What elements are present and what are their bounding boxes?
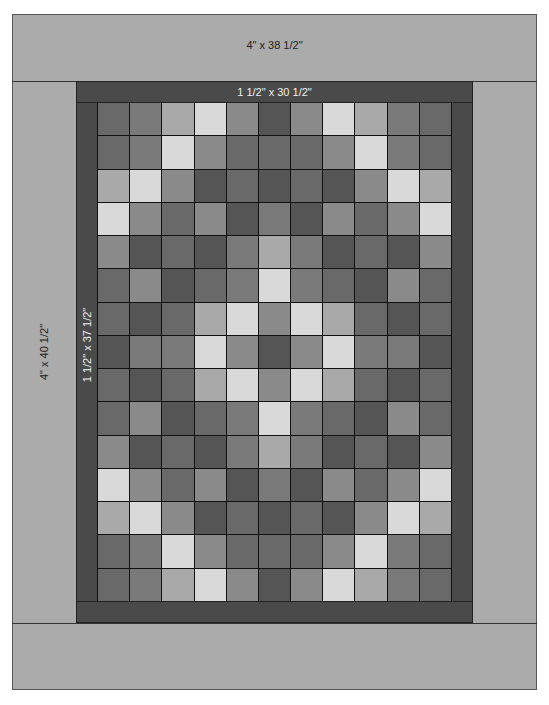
quilt-square (195, 402, 226, 434)
quilt-square (195, 136, 226, 168)
quilt-square (98, 336, 129, 368)
quilt-square (291, 569, 322, 601)
quilt-square (98, 502, 129, 534)
quilt-square (355, 236, 386, 268)
quilt-square (195, 269, 226, 301)
quilt-square (227, 136, 258, 168)
quilt-square (291, 170, 322, 202)
quilt-square (98, 170, 129, 202)
quilt-square (162, 535, 193, 567)
outer-border-bottom (12, 623, 537, 690)
quilt-square (259, 203, 290, 235)
quilt-square (195, 436, 226, 468)
quilt-square (355, 170, 386, 202)
quilt-square (388, 103, 419, 135)
quilt-square (323, 569, 354, 601)
outer-border-left: 4" x 40 1/2" (12, 82, 76, 623)
quilt-square (162, 569, 193, 601)
quilt-square (355, 203, 386, 235)
quilt-square (291, 136, 322, 168)
quilt-square (291, 269, 322, 301)
quilt-square (420, 502, 451, 534)
quilt-square (323, 369, 354, 401)
quilt-square (98, 436, 129, 468)
quilt-square (98, 402, 129, 434)
quilt-square (323, 269, 354, 301)
outer-top-dimension-label: 4" x 38 1/2" (12, 39, 537, 51)
quilt-square (227, 236, 258, 268)
quilt-square (355, 303, 386, 335)
quilt-square (291, 369, 322, 401)
quilt-square (291, 436, 322, 468)
quilt-square (227, 103, 258, 135)
quilt-square (162, 469, 193, 501)
quilt-square (227, 170, 258, 202)
quilt-square (98, 236, 129, 268)
quilt-square (162, 402, 193, 434)
quilt-square (323, 402, 354, 434)
quilt-square (227, 436, 258, 468)
inner-top-dimension-label: 1 1/2" x 30 1/2" (76, 86, 473, 98)
quilt-square (227, 303, 258, 335)
quilt-square (291, 203, 322, 235)
quilt-square (130, 502, 161, 534)
quilt-square (420, 569, 451, 601)
quilt-square (323, 535, 354, 567)
quilt-square (162, 303, 193, 335)
quilt-square (291, 236, 322, 268)
quilt-square (323, 469, 354, 501)
quilt-square (195, 336, 226, 368)
quilt-square (130, 103, 161, 135)
quilt-square (195, 103, 226, 135)
quilt-square (98, 569, 129, 601)
quilt-square (420, 535, 451, 567)
quilt-square (130, 170, 161, 202)
quilt-square (355, 269, 386, 301)
quilt-square (130, 469, 161, 501)
quilt-square (162, 236, 193, 268)
quilt-square (323, 303, 354, 335)
quilt-square (130, 535, 161, 567)
quilt-square (355, 436, 386, 468)
quilt-square (98, 136, 129, 168)
outer-side-dimension-label: 4" x 40 1/2" (38, 324, 50, 380)
quilt-square (355, 502, 386, 534)
quilt-square (130, 369, 161, 401)
quilt-square (291, 469, 322, 501)
quilt-square (259, 436, 290, 468)
quilt-square (195, 203, 226, 235)
quilt-square (195, 569, 226, 601)
inner-side-dimension-label: 1 1/2" x 37 1/2" (81, 308, 93, 382)
quilt-square (420, 203, 451, 235)
quilt-square (130, 269, 161, 301)
quilt-square (420, 170, 451, 202)
quilt-square (388, 170, 419, 202)
quilt-square (162, 203, 193, 235)
quilt-square (98, 303, 129, 335)
quilt-square (259, 469, 290, 501)
quilt-square (162, 436, 193, 468)
quilt-square (227, 535, 258, 567)
quilt-square (355, 336, 386, 368)
inner-border-bottom-divider (76, 601, 473, 602)
quilt-square (98, 469, 129, 501)
quilt-square (420, 303, 451, 335)
quilt-square (388, 336, 419, 368)
quilt-square (98, 103, 129, 135)
quilt-square (355, 369, 386, 401)
quilt-square (259, 136, 290, 168)
quilt-square (323, 203, 354, 235)
quilt-square (195, 469, 226, 501)
quilt-square (195, 369, 226, 401)
quilt-square (291, 303, 322, 335)
outer-border-top: 4" x 38 1/2" (12, 14, 537, 82)
quilt-square (227, 402, 258, 434)
quilt-square (355, 569, 386, 601)
quilt-square (259, 569, 290, 601)
quilt-square (388, 203, 419, 235)
quilt-square (195, 502, 226, 534)
quilt-square (388, 136, 419, 168)
quilt-square (323, 502, 354, 534)
quilt-square (162, 369, 193, 401)
quilt-square (259, 170, 290, 202)
